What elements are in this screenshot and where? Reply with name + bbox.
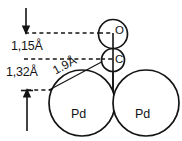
label-atom-carbon: C [115, 53, 123, 65]
label-atom-palladium-left: Pd [71, 107, 86, 121]
label-pd-c-height: 1,32Å [6, 64, 39, 79]
diagram-canvas: 1,15Å 1,32Å 1.9Å O C Pd Pd [0, 0, 182, 141]
label-c-o-distance: 1,15Å [11, 38, 44, 53]
atom-palladium-left [49, 70, 115, 136]
atom-palladium-right [113, 70, 179, 136]
label-atom-oxygen: O [115, 24, 124, 36]
label-atom-palladium-right: Pd [135, 107, 150, 121]
co-on-pd-diagram: 1,15Å 1,32Å 1.9Å O C Pd Pd [0, 0, 182, 141]
